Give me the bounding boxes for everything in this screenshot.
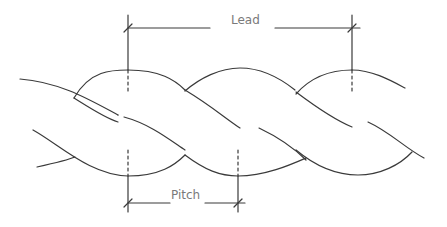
- bottom-centerlines: [128, 150, 238, 176]
- lower-strand: [33, 130, 412, 176]
- twist-diagram: Lead Pitch: [0, 0, 447, 227]
- top-centerlines: [128, 70, 352, 94]
- upper-strand: [20, 68, 424, 160]
- pitch-label: Pitch: [168, 188, 203, 202]
- lead-label: Lead: [228, 13, 263, 27]
- twist-drawing: [0, 0, 447, 227]
